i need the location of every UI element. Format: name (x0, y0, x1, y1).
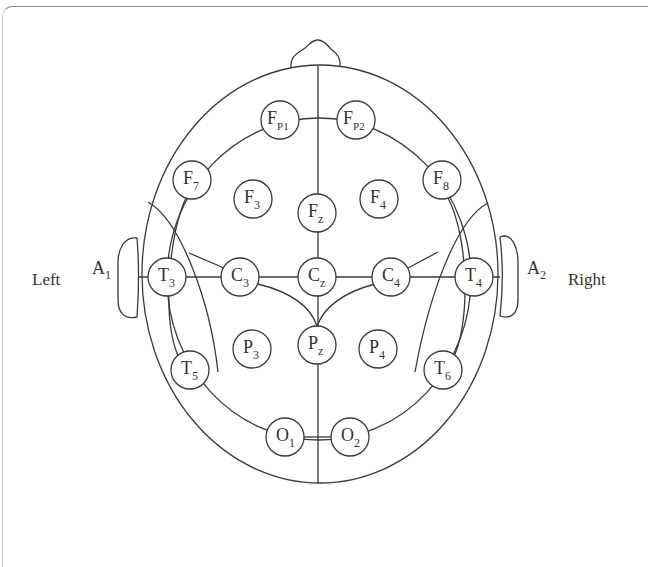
left-ear (118, 238, 139, 318)
electrode-t4: T4 (455, 258, 493, 296)
electrode-t6: T6 (424, 351, 462, 389)
electrode-f3: F3 (234, 180, 272, 218)
c4-arm (408, 252, 438, 268)
right-ear (500, 236, 518, 317)
electrode-fp2: FP2 (337, 101, 375, 139)
electrodes: FP1FP2F7F3FzF4F8T3C3CzC4T4P3PzP4T5T6O1O2 (148, 101, 493, 456)
electrode-f8: F8 (423, 161, 461, 199)
electrode-fp1: FP1 (261, 101, 299, 139)
electrode-t5: T5 (171, 351, 209, 389)
electrode-p3: P3 (233, 330, 271, 368)
ear-label-a1: A1 (92, 258, 111, 282)
electrode-o1: O1 (266, 418, 304, 456)
left-label: Left (32, 270, 61, 289)
electrode-cz: Cz (298, 258, 336, 296)
nose-outline (291, 40, 340, 67)
electrode-f4: F4 (360, 180, 398, 218)
electrode-pz: Pz (298, 326, 336, 364)
electrode-o2: O2 (331, 418, 369, 456)
electrode-c3: C3 (221, 258, 259, 296)
electrode-c4: C4 (372, 258, 410, 296)
ear-label-a2: A2 (527, 258, 546, 282)
electrode-t3: T3 (148, 258, 186, 296)
electrode-fz: Fz (298, 194, 336, 232)
electrode-p4: P4 (359, 330, 397, 368)
electrode-f7: F7 (173, 161, 211, 199)
c3-arm (189, 253, 224, 268)
right-label: Right (568, 270, 606, 289)
